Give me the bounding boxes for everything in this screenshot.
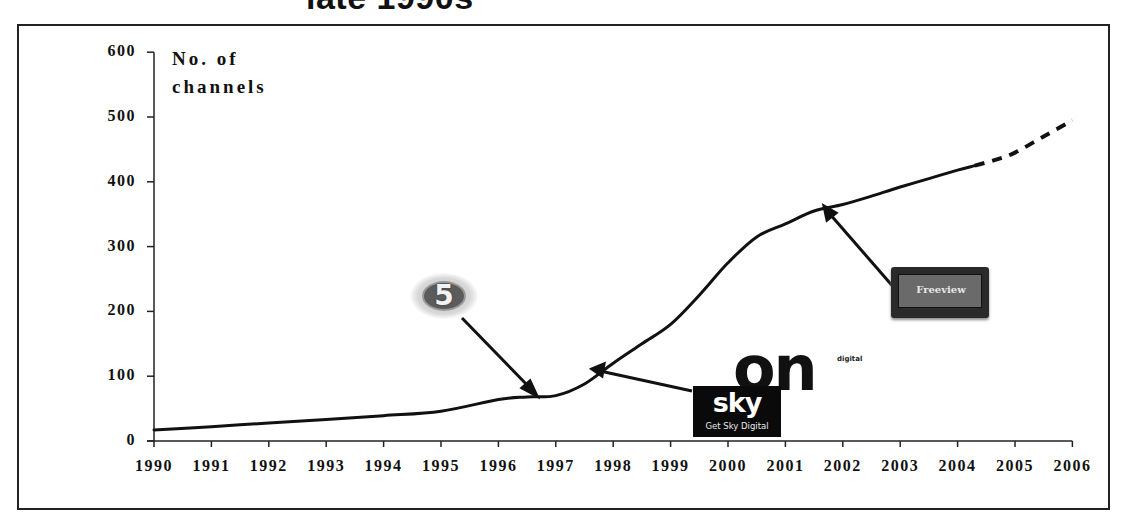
axes (147, 52, 1072, 447)
y-tick-label: 500 (96, 107, 136, 125)
channel5-logo: 5 (410, 273, 478, 319)
y-tick-label: 400 (96, 172, 136, 190)
line-chart (0, 0, 1122, 514)
y-tick-label: 600 (96, 42, 136, 60)
y-tick-label: 200 (96, 301, 136, 319)
x-tick-label: 2003 (872, 457, 928, 475)
x-tick-label: 1990 (126, 457, 182, 475)
x-tick-label: 2005 (987, 457, 1043, 475)
y-tick-label: 300 (96, 237, 136, 255)
x-tick-label: 1991 (183, 457, 239, 475)
y-tick-label: 0 (96, 431, 136, 449)
y-axis-label: No. of channels (172, 45, 267, 101)
x-tick-label: 1996 (470, 457, 526, 475)
sky-digital-logo: sky Get Sky Digital (693, 386, 781, 437)
sky-logo-text: sky (693, 387, 781, 419)
x-tick-label: 2002 (815, 457, 871, 475)
y-tick-label: 100 (96, 366, 136, 384)
y-axis-label-line1: No. of (172, 45, 267, 73)
x-tick-label: 1999 (643, 457, 699, 475)
arrow-channel5 (462, 318, 532, 390)
x-tick-label: 1992 (241, 457, 297, 475)
x-tick-label: 2001 (757, 457, 813, 475)
sky-logo-tagline: Get Sky Digital (693, 421, 781, 431)
channel5-logo-text: 5 (410, 278, 478, 314)
x-tick-label: 2004 (930, 457, 986, 475)
arrow-freeview (829, 213, 896, 290)
arrow-sky (600, 371, 692, 391)
freeview-logo-screen: Freeview (898, 274, 982, 308)
x-tick-label: 2006 (1044, 457, 1100, 475)
y-axis-label-line2: channels (172, 73, 267, 101)
x-tick-label: 1994 (356, 457, 412, 475)
series-line-projected (975, 120, 1073, 165)
freeview-logo: Freeview (891, 267, 989, 318)
x-tick-label: 1995 (413, 457, 469, 475)
freeview-logo-text: Freeview (899, 284, 983, 295)
x-tick-label: 1998 (585, 457, 641, 475)
x-tick-label: 1993 (298, 457, 354, 475)
x-tick-label: 2000 (700, 457, 756, 475)
ondigital-logo-subtext: digital (837, 355, 862, 363)
arrowhead-sky (592, 364, 604, 376)
x-tick-label: 1997 (528, 457, 584, 475)
